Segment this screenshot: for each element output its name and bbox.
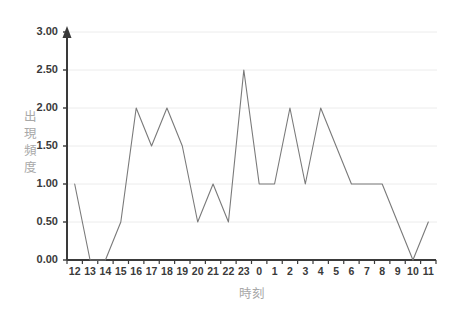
x-tick-label-6: 6 — [349, 265, 355, 277]
gridlines-group — [67, 32, 437, 260]
y-tick-label: 3.00 — [37, 25, 58, 37]
y-tick-label: 1.00 — [37, 177, 58, 189]
x-tick-label-13: 13 — [84, 265, 96, 277]
y-tick-label: 0.00 — [37, 253, 58, 265]
x-tick-label-21: 21 — [207, 265, 219, 277]
x-tick-labels-group: 12131415161718192021222301234567891011 — [69, 265, 434, 277]
y-tick-label: 2.00 — [37, 101, 58, 113]
x-tick-label-22: 22 — [223, 265, 235, 277]
x-tick-label-1: 1 — [272, 265, 278, 277]
y-tick-label: 1.50 — [37, 139, 58, 151]
x-tick-label-2: 2 — [287, 265, 293, 277]
x-tick-label-19: 19 — [176, 265, 188, 277]
y-tick-labels-group: 0.000.501.001.502.002.503.00 — [37, 25, 58, 265]
data-series-line — [75, 70, 429, 260]
y-axis-title-char: 度 — [24, 160, 37, 175]
x-tick-label-12: 12 — [69, 265, 81, 277]
chart-page: 0.000.501.001.502.002.503.00 12131415161… — [0, 0, 459, 318]
x-tick-label-20: 20 — [192, 265, 204, 277]
y-tick-label: 0.50 — [37, 215, 58, 227]
x-tick-label-5: 5 — [333, 265, 339, 277]
y-tick-label: 2.50 — [37, 63, 58, 75]
x-tick-label-14: 14 — [100, 265, 112, 277]
x-tick-label-7: 7 — [364, 265, 370, 277]
x-tick-label-11: 11 — [423, 265, 434, 277]
x-tick-label-18: 18 — [161, 265, 173, 277]
y-axis-title-char: 現 — [24, 126, 37, 141]
x-tick-label-23: 23 — [238, 265, 250, 277]
x-axis-title: 時刻 — [239, 286, 265, 301]
x-tick-label-16: 16 — [130, 265, 142, 277]
x-tick-label-4: 4 — [318, 265, 324, 277]
x-tick-label-9: 9 — [395, 265, 401, 277]
x-tick-label-8: 8 — [379, 265, 385, 277]
x-tick-label-10: 10 — [407, 265, 419, 277]
y-axis-title-char: 頻 — [24, 143, 37, 158]
x-tick-label-3: 3 — [302, 265, 308, 277]
y-axis-title-char: 出 — [24, 109, 37, 124]
line-chart: 0.000.501.001.502.002.503.00 12131415161… — [0, 0, 459, 318]
y-axis-title: 出現頻度 — [24, 109, 37, 175]
x-tick-label-17: 17 — [146, 265, 158, 277]
x-tick-label-0: 0 — [256, 265, 262, 277]
x-tick-label-15: 15 — [115, 265, 127, 277]
